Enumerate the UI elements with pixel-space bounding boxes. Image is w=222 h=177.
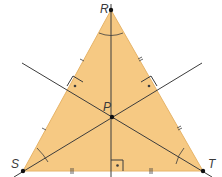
label-S: S <box>11 157 19 171</box>
label-P: P <box>103 100 111 114</box>
label-R: R <box>100 2 109 16</box>
diagram-canvas: R S T P <box>0 0 222 177</box>
point-P <box>110 115 114 119</box>
point-T <box>201 169 205 173</box>
point-R <box>109 8 113 12</box>
point-S <box>21 169 25 173</box>
triangle-RST <box>23 10 203 171</box>
label-T: T <box>208 157 217 171</box>
